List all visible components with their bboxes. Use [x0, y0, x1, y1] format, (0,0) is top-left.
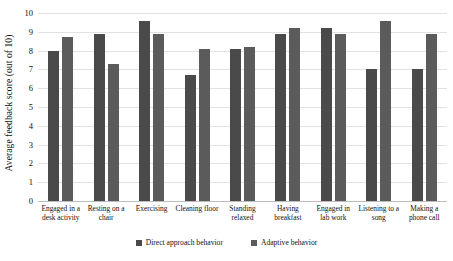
plot-area: 109876543210	[38, 13, 447, 201]
bar	[139, 21, 150, 201]
bar-group	[356, 13, 401, 201]
y-axis-tick-label: 9	[29, 28, 33, 37]
bar-chart: Average feedback score (out of 10) 10987…	[0, 0, 453, 261]
bar	[244, 47, 255, 201]
bar-group	[265, 13, 310, 201]
legend-swatch-icon	[136, 240, 142, 246]
bar-group	[311, 13, 356, 201]
legend-label: Adaptive behavior	[261, 238, 317, 247]
bar	[94, 34, 105, 201]
y-axis-tick-label: 3	[29, 140, 33, 149]
category-label: Standing relaxed	[220, 204, 265, 230]
y-axis-title: Average feedback score (out of 10)	[0, 0, 18, 205]
bar	[185, 75, 196, 201]
category-label: Exercising	[129, 204, 174, 230]
bar	[153, 34, 164, 201]
y-axis-tick-label: 1	[29, 178, 33, 187]
category-label: Having breakfast	[265, 204, 310, 230]
category-label: Listening to a song	[356, 204, 401, 230]
y-axis-tick-label: 8	[29, 46, 33, 55]
category-axis: Engaged in a desk activityResting on a c…	[38, 204, 447, 230]
legend-swatch-icon	[251, 240, 257, 246]
legend-item[interactable]: Direct approach behavior	[136, 238, 223, 247]
bar-group	[38, 13, 83, 201]
legend-item[interactable]: Adaptive behavior	[251, 238, 317, 247]
gridline: 0	[38, 201, 447, 202]
y-axis-tick-label: 2	[29, 159, 33, 168]
bar-group	[129, 13, 174, 201]
bar	[62, 37, 73, 201]
bar	[108, 64, 119, 201]
category-label: Engaged in lab work	[311, 204, 356, 230]
bar	[275, 34, 286, 201]
y-axis-tick-label: 5	[29, 103, 33, 112]
y-axis-tick-label: 10	[25, 9, 34, 18]
bar	[335, 34, 346, 201]
bars-layer	[38, 13, 447, 201]
bar-group	[220, 13, 265, 201]
legend-label: Direct approach behavior	[146, 238, 223, 247]
y-axis-tick-label: 6	[29, 84, 33, 93]
bar-group	[402, 13, 447, 201]
bar	[321, 28, 332, 201]
y-axis-title-text: Average feedback score (out of 10)	[4, 34, 14, 171]
bar	[426, 34, 437, 201]
category-label: Cleaning floor	[174, 204, 219, 230]
category-label: Making a phone call	[402, 204, 447, 230]
y-axis-tick-label: 7	[29, 65, 33, 74]
y-axis-tick-label: 0	[29, 197, 33, 206]
bar	[230, 49, 241, 201]
bar	[412, 69, 423, 201]
bar	[48, 51, 59, 201]
category-label: Resting on a chair	[83, 204, 128, 230]
bar-group	[83, 13, 128, 201]
bar	[289, 28, 300, 201]
bar	[199, 49, 210, 201]
bar-group	[174, 13, 219, 201]
chart-legend: Direct approach behaviorAdaptive behavio…	[0, 238, 453, 247]
y-axis-tick-label: 4	[29, 122, 33, 131]
category-label: Engaged in a desk activity	[38, 204, 83, 230]
bar	[366, 69, 377, 201]
bar	[380, 21, 391, 201]
